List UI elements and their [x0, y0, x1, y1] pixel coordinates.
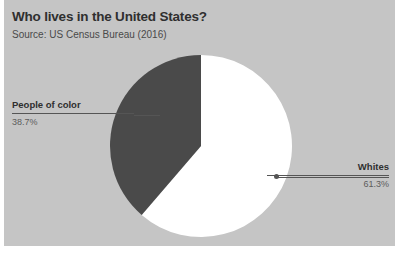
pie-chart: [106, 51, 296, 241]
callout-whites-rule: [267, 175, 389, 176]
chart-source-note: Source: US Census Bureau (2016): [12, 29, 167, 40]
chart-card: Who lives in the United States? Source: …: [4, 0, 395, 246]
callout-whites-label: Whites: [267, 161, 389, 173]
page-title: Who lives in the United States?: [12, 9, 207, 24]
callout-whites[interactable]: Whites 61.3%: [267, 161, 389, 190]
callout-people-of-color-label: People of color: [12, 99, 134, 111]
pie-chart-svg: [106, 51, 296, 241]
callout-whites-value: 61.3%: [267, 178, 389, 190]
callout-people-of-color-value: 38.7%: [12, 116, 134, 128]
callout-people-of-color[interactable]: People of color 38.7%: [12, 99, 134, 128]
leader-line-people-of-color: [134, 115, 160, 116]
callout-people-of-color-rule: [12, 113, 134, 114]
